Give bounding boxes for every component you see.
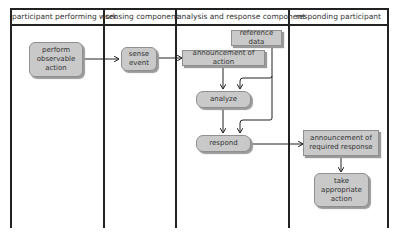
node-announcement-of-action: announcement of action [182,50,265,66]
node-sense-event: sense event [121,47,157,71]
node-reference-data: reference data [231,30,282,46]
node-respond: respond [196,135,251,152]
node-analyze: analyze [196,91,251,108]
node-take-appropriate-action: take appropriate action [314,173,369,207]
node-announcement-of-required-response: announcement of required response [303,130,379,156]
node-perform-observable-action: perform observable action [29,42,83,77]
